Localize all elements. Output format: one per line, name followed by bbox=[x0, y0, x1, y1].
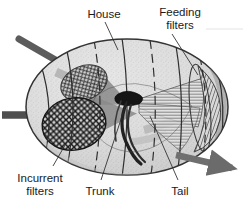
label-tail: Tail bbox=[171, 185, 188, 197]
label-house: House bbox=[87, 8, 120, 20]
label-trunk: Trunk bbox=[86, 185, 115, 197]
larvacean-house-figure: House Feeding filters Incurrent filters … bbox=[0, 0, 252, 214]
label-feeding-filters-line2: filters bbox=[166, 19, 194, 31]
label-feeding-filters-line1: Feeding bbox=[159, 6, 201, 18]
label-incurrent-filters-line2: filters bbox=[26, 185, 54, 197]
label-incurrent-filters-line1: Incurrent bbox=[17, 172, 63, 184]
diagram-canvas: House Feeding filters Incurrent filters … bbox=[0, 0, 252, 214]
